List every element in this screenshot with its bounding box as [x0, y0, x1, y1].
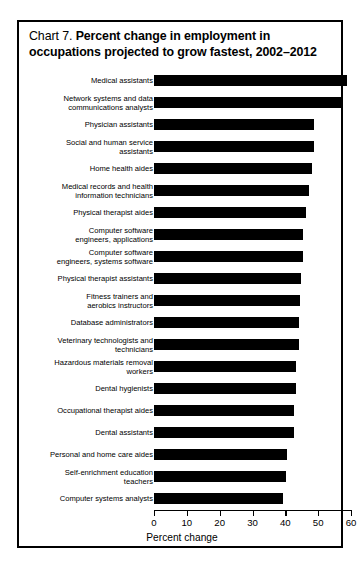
bar	[154, 449, 287, 460]
x-axis-tick-label: 40	[270, 517, 300, 528]
bar-row: Physical therapist assistants	[19, 268, 345, 290]
bar	[154, 361, 296, 372]
bar	[154, 185, 309, 196]
bar-row: Medical records and health information t…	[19, 180, 345, 202]
bar	[154, 427, 294, 438]
x-axis-tick	[285, 511, 286, 516]
bar	[154, 207, 306, 218]
bar	[154, 75, 347, 86]
bar-row: Dental assistants	[19, 422, 345, 444]
chart-card: Chart 7. Percent change in employment in…	[17, 20, 343, 548]
bar-row: Dental hygienists	[19, 378, 345, 400]
bar-category-label: Dental assistants	[25, 428, 153, 437]
bar-category-label: Medical assistants	[25, 76, 153, 85]
bar-row: Veterinary technologists and technicians	[19, 334, 345, 356]
bar-category-label: Self-enrichment education teachers	[25, 468, 153, 486]
bar	[154, 405, 294, 416]
x-axis-tick-label: 0	[139, 517, 169, 528]
bar	[154, 251, 303, 262]
bar-category-label: Veterinary technologists and technicians	[25, 336, 153, 354]
bar-category-label: Occupational therapist aides	[25, 406, 153, 415]
bar-row: Personal and home care aides	[19, 444, 345, 466]
plot-area: Medical assistantsNetwork systems and da…	[19, 70, 345, 550]
bar-category-label: Home health aides	[25, 164, 153, 173]
x-axis-tick-label: 50	[303, 517, 333, 528]
bar-row: Social and human service assistants	[19, 136, 345, 158]
bar-row: Medical assistants	[19, 70, 345, 92]
bar-row: Computer systems analysts	[19, 488, 345, 510]
bar	[154, 229, 303, 240]
chart-title-text: Percent change in employment in occupati…	[29, 29, 317, 59]
x-axis-tick-label: 30	[238, 517, 268, 528]
bar-row: Hazardous materials removal workers	[19, 356, 345, 378]
bar	[154, 119, 314, 130]
bar-category-label: Computer systems analysts	[25, 494, 153, 503]
bar-category-label: Hazardous materials removal workers	[25, 358, 153, 376]
chart-title: Chart 7. Percent change in employment in…	[29, 29, 335, 60]
x-axis-tick	[220, 511, 221, 516]
bar	[154, 493, 283, 504]
bar-rows: Medical assistantsNetwork systems and da…	[19, 70, 345, 510]
bar-category-label: Computer software engineers, systems sof…	[25, 248, 153, 266]
x-axis-tick	[154, 511, 155, 516]
bar-category-label: Physical therapist assistants	[25, 274, 153, 283]
bar-row: Physical therapist aides	[19, 202, 345, 224]
bar-row: Occupational therapist aides	[19, 400, 345, 422]
bar	[154, 97, 341, 108]
bar-row: Database administrators	[19, 312, 345, 334]
bar-row: Physician assistants	[19, 114, 345, 136]
bar	[154, 471, 286, 482]
bar	[154, 295, 300, 306]
bar-category-label: Computer software engineers, application…	[25, 226, 153, 244]
bar-category-label: Dental hygienists	[25, 384, 153, 393]
bar	[154, 317, 299, 328]
x-axis-title: Percent change	[19, 532, 345, 543]
bar-category-label: Physical therapist aides	[25, 208, 153, 217]
bar-row: Self-enrichment education teachers	[19, 466, 345, 488]
x-axis-tick	[187, 511, 188, 516]
bar	[154, 339, 299, 350]
bar-row: Fitness trainers and aerobics instructor…	[19, 290, 345, 312]
bar-row: Computer software engineers, application…	[19, 224, 345, 246]
bar	[154, 383, 296, 394]
bar-row: Home health aides	[19, 158, 345, 180]
x-axis-tick-label: 10	[172, 517, 202, 528]
bar-row: Network systems and data communications …	[19, 92, 345, 114]
bar-category-label: Social and human service assistants	[25, 138, 153, 156]
bar-category-label: Fitness trainers and aerobics instructor…	[25, 292, 153, 310]
x-axis-tick	[351, 511, 352, 516]
bar	[154, 163, 312, 174]
bar-category-label: Database administrators	[25, 318, 153, 327]
bar	[154, 273, 301, 284]
bar-category-label: Physician assistants	[25, 120, 153, 129]
x-axis-tick-label: 60	[336, 517, 361, 528]
bar-category-label: Personal and home care aides	[25, 450, 153, 459]
bar-row: Computer software engineers, systems sof…	[19, 246, 345, 268]
bar-category-label: Medical records and health information t…	[25, 182, 153, 200]
bar	[154, 141, 314, 152]
x-axis-tick-label: 20	[205, 517, 235, 528]
chart-title-prefix: Chart 7.	[29, 29, 72, 43]
bar-category-label: Network systems and data communications …	[25, 94, 153, 112]
x-axis-tick	[253, 511, 254, 516]
x-axis-tick	[318, 511, 319, 516]
